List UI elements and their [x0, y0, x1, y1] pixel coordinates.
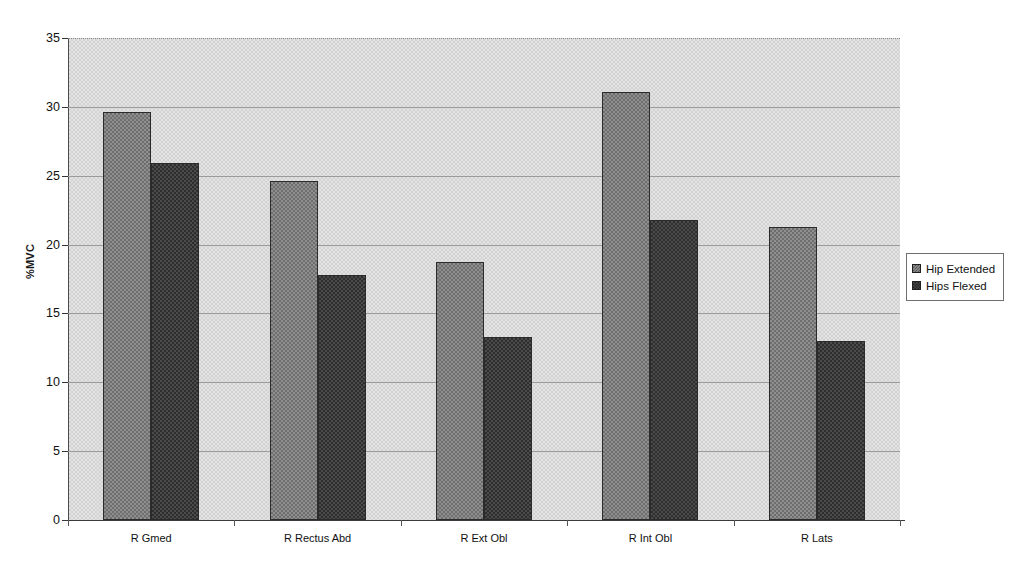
bar-group: [602, 38, 698, 520]
bar[interactable]: [769, 227, 817, 520]
x-tick-mark: [68, 520, 69, 526]
bar[interactable]: [318, 275, 366, 520]
y-tick-label: 25: [20, 171, 60, 181]
y-tick-label: 5: [20, 446, 60, 456]
bar-group: [769, 38, 865, 520]
y-tick-label: 0: [20, 515, 60, 525]
bar[interactable]: [151, 163, 199, 520]
legend-item-hips-flexed[interactable]: Hips Flexed: [912, 277, 995, 294]
x-axis-line: [62, 520, 905, 521]
x-tick-mark: [401, 520, 402, 526]
y-tick-label: 10: [20, 377, 60, 387]
bar[interactable]: [602, 92, 650, 520]
x-tick-label: R Int Obl: [567, 532, 733, 544]
bar[interactable]: [436, 262, 484, 520]
bar[interactable]: [817, 341, 865, 520]
legend-swatch-icon: [912, 281, 921, 290]
bar[interactable]: [484, 337, 532, 520]
x-tick-mark: [567, 520, 568, 526]
y-tick-label: 15: [20, 308, 60, 318]
bar[interactable]: [103, 112, 151, 520]
legend-swatch-icon: [912, 264, 921, 273]
bar-group: [270, 38, 366, 520]
bar[interactable]: [270, 181, 318, 520]
bar-chart: %MVC 05101520253035 R GmedR Rectus AbdR …: [0, 0, 1025, 573]
x-tick-label: R Ext Obl: [401, 532, 567, 544]
x-tick-mark: [234, 520, 235, 526]
y-tick-label: 20: [20, 240, 60, 250]
x-tick-label: R Gmed: [68, 532, 234, 544]
bar[interactable]: [650, 220, 698, 520]
legend: Hip Extended Hips Flexed: [906, 253, 1004, 301]
x-tick-label: R Rectus Abd: [235, 532, 401, 544]
legend-item-hip-extended[interactable]: Hip Extended: [912, 260, 995, 277]
legend-label: Hip Extended: [926, 263, 995, 275]
legend-label: Hips Flexed: [926, 280, 987, 292]
bar-group: [436, 38, 532, 520]
x-tick-mark: [734, 520, 735, 526]
bar-group: [103, 38, 199, 520]
y-tick-label: 35: [20, 33, 60, 43]
x-tick-mark: [900, 520, 901, 526]
y-tick-label: 30: [20, 102, 60, 112]
bars-layer: [68, 38, 900, 520]
x-tick-label: R Lats: [734, 532, 900, 544]
